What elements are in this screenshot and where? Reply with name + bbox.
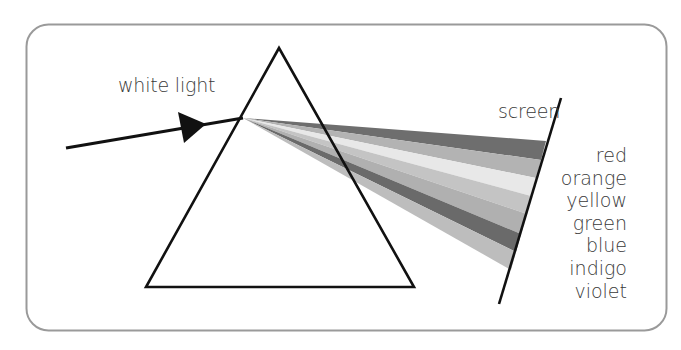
spectrum-labels: red orange yellow green blue indigo viol… [561, 144, 627, 302]
label-yellow: yellow [561, 189, 627, 212]
screen-label: screen [480, 100, 560, 122]
label-red: red [561, 144, 627, 167]
label-blue: blue [561, 234, 627, 257]
white-light-label: white light [118, 74, 215, 96]
prism-diagram: white light screen red orange yellow gre… [0, 0, 681, 350]
label-violet: violet [561, 280, 627, 303]
label-green: green [561, 212, 627, 235]
label-indigo: indigo [561, 257, 627, 280]
label-orange: orange [561, 167, 627, 190]
